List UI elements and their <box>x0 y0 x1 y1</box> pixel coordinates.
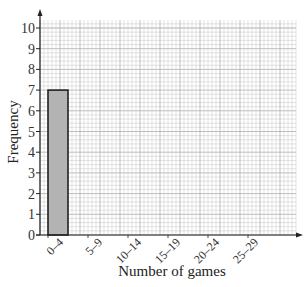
histogram-chart: 012345678910 0–45–910–1415–1920–2425–29 … <box>0 0 306 287</box>
x-tick-labels: 0–45–910–1415–1920–2425–29 <box>43 235 261 266</box>
y-tick-label: 8 <box>28 62 35 77</box>
grid <box>40 20 296 235</box>
y-tick-label: 2 <box>28 187 35 202</box>
x-tick-label: 15–19 <box>152 235 183 266</box>
x-axis-label: Number of games <box>118 263 226 279</box>
y-tick-label: 10 <box>21 21 35 36</box>
x-tick-label: 20–24 <box>191 235 222 266</box>
x-tick-label: 0–4 <box>43 235 66 258</box>
y-axis-label: Frequency <box>5 100 21 164</box>
y-tick-label: 7 <box>28 83 35 98</box>
x-tick-label: 5–9 <box>82 235 105 258</box>
y-tick-label: 1 <box>28 207 35 222</box>
x-tick-label: 25–29 <box>230 235 261 266</box>
y-tick-label: 3 <box>28 166 35 181</box>
y-tick-label: 0 <box>28 228 35 243</box>
x-tick-label: 10–14 <box>113 235 144 266</box>
bars <box>48 90 68 235</box>
y-tick-label: 5 <box>28 125 35 140</box>
y-tick-label: 9 <box>28 42 35 57</box>
y-tick-label: 4 <box>28 145 35 160</box>
bar <box>48 90 68 235</box>
y-tick-label: 6 <box>28 104 35 119</box>
y-tick-labels: 012345678910 <box>21 21 40 243</box>
